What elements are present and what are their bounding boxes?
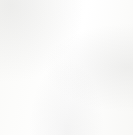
- x-axis-tick-label-positive: 10: [97, 71, 102, 75]
- y-axis-tick-label-positive: 10: [76, 30, 81, 34]
- x-axis: [7, 67, 128, 68]
- y-axis-name-label: y: [74, 8, 76, 13]
- y-axis-tick-label-negative: -10: [76, 92, 82, 96]
- y-axis: [72, 9, 73, 128]
- x-axis-tick-label-negative: -10: [36, 70, 42, 74]
- coordinate-plane: [0, 0, 133, 135]
- graph-figure: 10 -10 10 -10 y x: [0, 0, 133, 135]
- x-axis-name-label: x: [121, 62, 123, 67]
